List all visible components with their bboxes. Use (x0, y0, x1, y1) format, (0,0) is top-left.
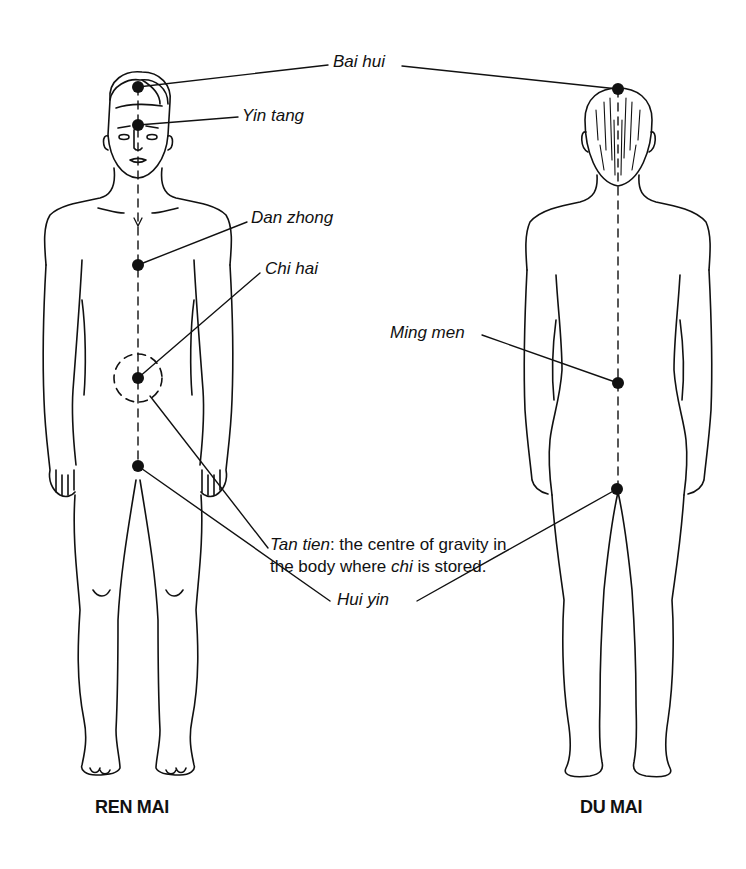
point-hui-yin-front (132, 460, 144, 472)
figure-title-ren-mai: REN MAI (95, 797, 169, 818)
label-bai-hui: Bai hui (333, 52, 385, 72)
label-ming-men: Ming men (390, 323, 465, 343)
chi-term: chi (391, 557, 413, 576)
figure-title-du-mai: DU MAI (580, 797, 642, 818)
point-bai-hui-front (132, 81, 144, 93)
point-bai-hui-back (612, 83, 624, 95)
point-dan-zhong (132, 259, 144, 271)
meridian-diagram: Bai hui Yin tang Dan zhong Chi hai Ming … (0, 0, 746, 869)
body-outlines (0, 0, 746, 869)
point-chi-hai (132, 372, 144, 384)
point-yin-tang (132, 119, 144, 131)
tan-tien-desc-part2: is stored. (413, 557, 487, 576)
point-ming-men (612, 377, 624, 389)
point-hui-yin-back (611, 483, 623, 495)
tan-tien-description: Tan tien: the centre of gravity in the b… (270, 534, 530, 578)
tan-tien-term: Tan tien (270, 535, 330, 554)
label-chi-hai: Chi hai (265, 259, 318, 279)
label-hui-yin: Hui yin (337, 590, 389, 610)
label-yin-tang: Yin tang (242, 106, 304, 126)
leader-lines (138, 65, 618, 601)
label-dan-zhong: Dan zhong (251, 208, 333, 228)
